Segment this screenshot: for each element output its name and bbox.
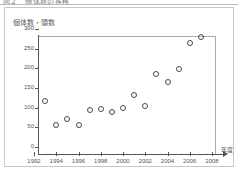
y-tick-label-text: 150: [24, 84, 34, 90]
y-tick-label: 200: [5, 64, 34, 72]
x-tick-label: 2006: [183, 158, 196, 164]
x-tick-mark: [34, 152, 35, 156]
x-tick-mark: [79, 152, 80, 156]
x-tick-label: 1994: [50, 158, 63, 164]
y-tick-label-text: 250: [24, 45, 34, 51]
x-tick-label: 2008: [205, 158, 218, 164]
y-tick-mark: [35, 68, 39, 69]
scatter-point: [153, 71, 159, 77]
x-tick-label: 2004: [161, 158, 174, 164]
header-divider: [0, 4, 238, 5]
scatter-point: [187, 40, 193, 46]
y-tick-mark: [35, 147, 39, 148]
scatter-point: [53, 122, 59, 128]
scatter-point: [165, 79, 171, 85]
x-tick-label: 1996: [72, 158, 85, 164]
scatter-point: [98, 106, 104, 112]
y-tick-label: 0: [5, 143, 34, 151]
scatter-point: [64, 116, 70, 122]
x-tick-label: 1998: [94, 158, 107, 164]
y-tick-label: 100: [5, 104, 34, 112]
y-tick-label: 250: [5, 45, 34, 53]
plot-area-box: [38, 36, 216, 154]
scatter-point: [87, 107, 93, 113]
scatter-point: [109, 109, 115, 115]
x-axis-title: 年度: [221, 145, 233, 154]
x-tick-mark: [190, 152, 191, 156]
x-tick-mark: [101, 152, 102, 156]
y-axis-line: [38, 35, 39, 155]
x-tick-mark: [168, 152, 169, 156]
scatter-point: [131, 92, 137, 98]
y-tick-label-text: 300: [24, 25, 34, 31]
x-tick-mark: [56, 152, 57, 156]
y-tick-label-text: 100: [24, 104, 34, 110]
scatter-point: [142, 103, 148, 109]
y-tick-mark: [35, 88, 39, 89]
scatter-point: [42, 98, 48, 104]
x-tick-mark: [123, 152, 124, 156]
scatter-point: [120, 105, 126, 111]
y-tick-label: 300: [5, 25, 34, 33]
y-tick-mark: [35, 127, 39, 128]
x-tick-label: 2000: [116, 158, 129, 164]
y-tick-mark: [35, 108, 39, 109]
scatter-point: [198, 34, 204, 40]
y-tick-mark: [35, 49, 39, 50]
x-tick-mark: [212, 152, 213, 156]
x-tick-label: 2002: [139, 158, 152, 164]
figure-frame: 個体数・頭数 年度 050100150200250300 19921994199…: [4, 7, 234, 167]
y-tick-label-text: 0: [31, 143, 34, 149]
y-tick-label-text: 200: [24, 64, 34, 70]
x-axis-line: [38, 154, 224, 155]
scatter-point: [176, 66, 182, 72]
y-tick-label-text: 50: [27, 123, 34, 129]
screenshot-root: 図２ 個体数の推移 個体数・頭数 年度 050100150200250300 1…: [0, 0, 238, 175]
scatter-point: [76, 122, 82, 128]
x-tick-label: 1992: [27, 158, 40, 164]
y-tick-label: 150: [5, 84, 34, 92]
y-tick-label: 50: [5, 123, 34, 131]
x-tick-mark: [145, 152, 146, 156]
y-tick-mark: [35, 29, 39, 30]
